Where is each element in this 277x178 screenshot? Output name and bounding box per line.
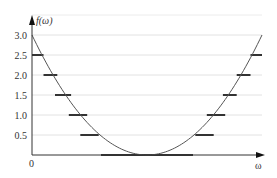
- y-tick-label: 1.5: [15, 90, 28, 101]
- y-tick-label: 2.5: [15, 50, 28, 61]
- gridlines: [32, 15, 262, 135]
- y-tick-label: 2.0: [15, 70, 28, 81]
- x-axis-label: ω: [255, 160, 262, 171]
- chart: 0.51.01.52.02.53.0 f(ω) ω 0: [0, 0, 277, 178]
- y-tick-labels: 0.51.01.52.02.53.0: [15, 30, 28, 141]
- y-tick-label: 3.0: [15, 30, 28, 41]
- level-segments: [32, 55, 262, 155]
- y-tick-label: 0.5: [15, 130, 28, 141]
- y-axis-arrow-icon: [29, 15, 35, 25]
- y-tick-label: 1.0: [15, 110, 28, 121]
- x-axis-arrow-icon: [256, 152, 265, 158]
- y-axis-label: f(ω): [36, 15, 53, 27]
- x-origin-label: 0: [29, 158, 34, 169]
